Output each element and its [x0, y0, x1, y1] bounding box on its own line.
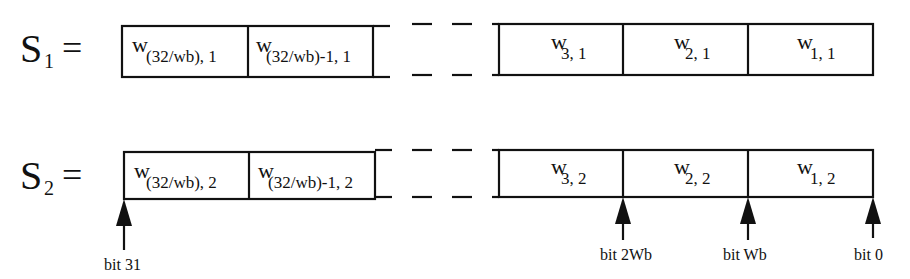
- cell-w-32wb-1: w (32/wb), 1: [132, 32, 217, 66]
- row-label-subscript: 2: [44, 177, 54, 199]
- svg-text:(32/wb), 1: (32/wb), 1: [146, 47, 217, 66]
- svg-text:(32/wb)-1, 1: (32/wb)-1, 1: [266, 47, 351, 66]
- bit-marker-wb: bit Wb: [723, 197, 767, 263]
- svg-text:bit 31: bit 31: [104, 256, 141, 273]
- equals-sign: =: [62, 155, 82, 195]
- row-label-subscript: 1: [44, 50, 54, 72]
- cell-w-32wb-minus1-1: w (32/wb)-1, 1: [256, 32, 351, 66]
- svg-text:bit 0: bit 0: [854, 246, 883, 263]
- up-arrow-icon: [865, 197, 881, 224]
- svg-text:1, 2: 1, 2: [810, 169, 836, 188]
- bit-marker-0: bit 0: [854, 197, 883, 263]
- up-arrow-icon: [615, 197, 631, 224]
- cell-w-3-1: w 3, 1: [551, 29, 587, 63]
- equals-sign: =: [62, 28, 82, 68]
- continuation-dashes: [412, 150, 472, 197]
- svg-text:2, 2: 2, 2: [685, 169, 711, 188]
- svg-text:(32/wb), 2: (32/wb), 2: [146, 173, 217, 192]
- svg-text:bit Wb: bit Wb: [723, 246, 767, 263]
- row-label: S: [20, 153, 42, 198]
- row-label: S: [20, 26, 42, 71]
- cell-w-1-1: w 1, 1: [797, 29, 836, 63]
- up-arrow-icon: [116, 199, 132, 226]
- svg-text:3, 1: 3, 1: [561, 44, 587, 63]
- bit-marker-2wb: bit 2Wb: [600, 197, 652, 263]
- bit-marker-31: bit 31: [104, 199, 141, 273]
- register-layout-diagram: S 1 = w (32/wb), 1 w: [0, 0, 910, 279]
- row-s2: S 2 = w (32/wb), 2 w (32/wb)-1: [20, 150, 873, 199]
- svg-text:bit 2Wb: bit 2Wb: [600, 246, 652, 263]
- cell-w-32wb-minus1-2: w (32/wb)-1, 2: [258, 158, 353, 192]
- cell-w-1-2: w 1, 2: [797, 154, 836, 188]
- row-s1: S 1 = w (32/wb), 1 w: [20, 24, 873, 77]
- svg-text:1, 1: 1, 1: [810, 44, 836, 63]
- svg-text:2, 1: 2, 1: [685, 44, 711, 63]
- svg-text:3, 2: 3, 2: [561, 169, 587, 188]
- cell-w-3-2: w 3, 2: [551, 154, 587, 188]
- up-arrow-icon: [740, 197, 756, 224]
- cell-w-2-2: w 2, 2: [674, 154, 711, 188]
- continuation-dashes: [412, 24, 472, 75]
- cell-w-32wb-2: w (32/wb), 2: [134, 158, 217, 192]
- cell-w-2-1: w 2, 1: [674, 29, 711, 63]
- svg-text:(32/wb)-1, 2: (32/wb)-1, 2: [268, 173, 353, 192]
